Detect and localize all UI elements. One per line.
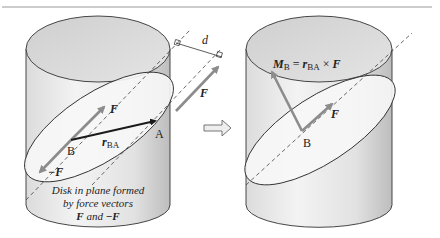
label-a: A: [155, 127, 164, 141]
svg-text:by force vectors: by force vectors: [63, 197, 133, 209]
label-neg-f: −F: [48, 165, 63, 179]
svg-text:F and −F: F and −F: [75, 210, 120, 222]
svg-text:Disk in plane formed: Disk in plane formed: [51, 184, 145, 196]
label-b-right: B: [303, 136, 311, 150]
moment-diagram: d F F −F B A rBA Disk in plane formed by…: [0, 0, 440, 238]
force-f-right-arrow: [176, 67, 218, 111]
right-cylinder: [229, 16, 412, 227]
label-d: d: [202, 33, 209, 47]
moment-equation: MB = rBA × F: [272, 57, 340, 72]
label-f-right: F: [199, 86, 208, 100]
right-arrow-icon: [204, 120, 231, 136]
label-f-right-panel: F: [330, 107, 339, 121]
label-f-top: F: [109, 102, 118, 116]
label-b-left: B: [67, 144, 75, 158]
